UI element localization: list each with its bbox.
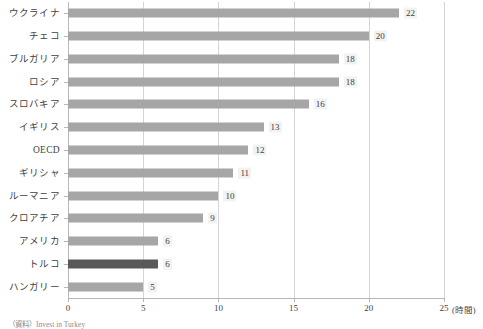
bar-row: ウクライナ22	[68, 2, 444, 25]
x-tick-label-10: 10	[214, 303, 223, 313]
bar-row: チェコ20	[68, 25, 444, 48]
category-label-11: トルコ	[0, 258, 60, 269]
bar-row: ロシア18	[68, 70, 444, 93]
category-label-1: チェコ	[0, 31, 60, 42]
bar-row: ブルガリア18	[68, 48, 444, 71]
bar-value-label-8: 10	[223, 190, 236, 201]
category-label-0: ウクライナ	[0, 8, 60, 19]
bar-value-label-4: 16	[314, 99, 327, 110]
bar-6	[68, 145, 248, 154]
bar-row: スロバキア16	[68, 93, 444, 116]
x-tick-label-25: 25	[440, 303, 449, 313]
bar-value-label-3: 18	[344, 76, 357, 87]
bar-row: クロアチア9	[68, 207, 444, 230]
x-tick-25	[444, 298, 445, 302]
category-label-3: ロシア	[0, 76, 60, 87]
category-label-12: ハンガリー	[0, 281, 60, 292]
bar-row: トルコ6	[68, 252, 444, 275]
plot-area: ウクライナ22チェコ20ブルガリア18ロシア18スロバキア16イギリス13OEC…	[68, 2, 444, 298]
bar-value-label-7: 11	[238, 167, 251, 178]
x-tick-label-20: 20	[364, 303, 373, 313]
bar-10	[68, 237, 158, 246]
bar-2	[68, 54, 339, 63]
bar-value-label-1: 20	[374, 31, 387, 42]
x-tick-label-15: 15	[289, 303, 298, 313]
x-tick-0	[68, 298, 69, 302]
category-label-9: クロアチア	[0, 213, 60, 224]
x-tick-20	[369, 298, 370, 302]
x-tick-15	[294, 298, 295, 302]
category-label-2: ブルガリア	[0, 53, 60, 64]
category-label-4: スロバキア	[0, 99, 60, 110]
bar-value-label-12: 5	[148, 281, 157, 292]
x-tick-label-5: 5	[141, 303, 146, 313]
category-label-7: ギリシャ	[0, 167, 60, 178]
bar-8	[68, 191, 218, 200]
bar-1	[68, 32, 369, 41]
gridline-25	[444, 2, 445, 298]
x-axis-unit-label: (時間)	[452, 303, 476, 315]
bar-value-label-5: 13	[269, 122, 282, 133]
category-label-8: ルーマニア	[0, 190, 60, 201]
x-axis-line	[68, 298, 445, 299]
bar-5	[68, 123, 264, 132]
bar-row: イギリス13	[68, 116, 444, 139]
category-label-5: イギリス	[0, 122, 60, 133]
bar-row: ハンガリー5	[68, 275, 444, 298]
bar-value-label-9: 9	[208, 213, 217, 224]
bar-7	[68, 168, 233, 177]
x-tick-5	[143, 298, 144, 302]
bar-0	[68, 9, 399, 18]
bar-value-label-2: 18	[344, 53, 357, 64]
bar-11	[68, 259, 158, 268]
bar-4	[68, 100, 309, 109]
bar-value-label-6: 12	[253, 144, 266, 155]
bar-3	[68, 77, 339, 86]
bar-row: ルーマニア10	[68, 184, 444, 207]
x-tick-10	[218, 298, 219, 302]
bar-value-label-10: 6	[163, 236, 172, 247]
bar-12	[68, 282, 143, 291]
source-note: （資料）Invest in Turkey	[8, 318, 85, 329]
bar-value-label-0: 22	[404, 8, 417, 19]
x-tick-label-0: 0	[66, 303, 71, 313]
category-label-6: OECD	[0, 144, 60, 155]
bar-row: ギリシャ11	[68, 161, 444, 184]
bar-9	[68, 214, 203, 223]
bar-row: アメリカ6	[68, 230, 444, 253]
bar-value-label-11: 6	[163, 258, 172, 269]
bar-row: OECD12	[68, 139, 444, 162]
category-label-10: アメリカ	[0, 236, 60, 247]
